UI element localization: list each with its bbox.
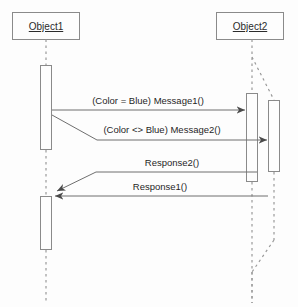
message-message2[interactable]: (Color <> Blue) Message2() — [52, 115, 267, 140]
activation-bar-object2-branch[interactable] — [269, 101, 280, 172]
message-label-response1: Response1() — [133, 181, 187, 192]
activation-bar-object1-first[interactable] — [41, 66, 52, 150]
uml-sequence-diagram: Object1 Object2 (Color = Blue) Message1(… — [0, 0, 298, 307]
diagram-canvas: Object1 Object2 (Color = Blue) Message1(… — [0, 0, 298, 307]
lifeline-object2-branch-merge — [252, 240, 274, 272]
activation-bar-object2-main[interactable] — [247, 94, 258, 182]
message-label-message1: (Color = Blue) Message1() — [92, 95, 204, 106]
participant-label-object1: Object1 — [29, 21, 64, 32]
message-message1[interactable]: (Color = Blue) Message1() — [52, 95, 245, 110]
participant-label-object2: Object2 — [233, 21, 268, 32]
participant-object1[interactable]: Object1 — [13, 13, 80, 40]
message-label-response2: Response2() — [145, 157, 199, 168]
message-response1[interactable]: Response1() — [55, 181, 268, 196]
participant-object2[interactable]: Object2 — [217, 13, 284, 40]
activation-bar-object1-second[interactable] — [41, 197, 52, 250]
message-label-message2: (Color <> Blue) Message2() — [103, 124, 220, 135]
